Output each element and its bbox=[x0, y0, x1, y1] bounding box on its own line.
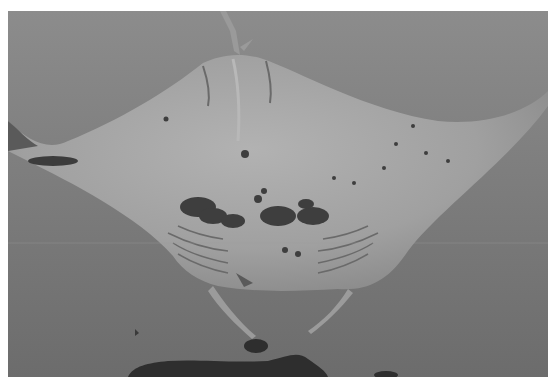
manta-ray-photo bbox=[8, 11, 548, 377]
fish-silhouette-left bbox=[28, 156, 78, 166]
photo-frame bbox=[8, 11, 548, 377]
dark-fish bbox=[244, 339, 268, 353]
